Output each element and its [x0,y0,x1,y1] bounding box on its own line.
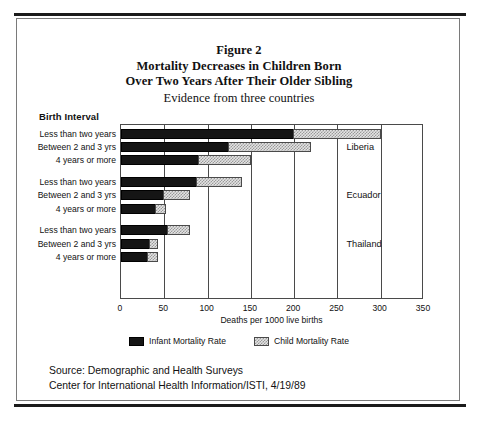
x-tick-label-0: 0 [100,303,140,313]
bar-segment-infant [121,129,294,139]
bar-row [121,142,424,152]
country-label-ecuador: Ecuador [346,190,380,200]
x-tick-label-200: 200 [273,303,313,313]
bar-row [121,225,424,235]
bar-segment-child [196,177,242,187]
bar-segment-child [198,155,251,165]
bar-segment-infant [121,142,229,152]
bar-segment-infant [121,225,168,235]
x-tick-label-50: 50 [143,303,183,313]
bar-segment-infant [121,252,148,262]
bar-segment-child [155,204,166,214]
page-rule-top [14,13,466,16]
bar-row [121,129,424,139]
category-label: Between 2 and 3 yrs [20,190,116,200]
legend-item-infant: Infant Mortality Rate [129,336,226,346]
bar-segment-child [163,190,190,200]
bar-row [121,252,424,262]
bar-row [121,204,424,214]
child-swatch-icon [254,337,269,346]
category-label: 4 years or more [20,204,116,214]
category-label: Between 2 and 3 yrs [20,239,116,249]
bar-segment-child [147,252,158,262]
birth-interval-heading: Birth Interval [39,111,99,122]
category-label: 4 years or more [20,252,116,262]
legend-label-infant: Infant Mortality Rate [149,336,226,346]
x-tick-label-100: 100 [187,303,227,313]
bar-segment-child [167,225,191,235]
source-line-2: Center for International Health Informat… [49,378,305,393]
category-label: Less than two years [20,177,116,187]
figure-border: Figure 2 Mortality Decreases in Children… [16,18,460,401]
page-rule-bottom [14,404,466,407]
bar-segment-infant [121,155,199,165]
bar-segment-child [228,142,311,152]
country-label-liberia: Liberia [346,142,374,152]
country-label-thailand: Thailand [346,239,381,249]
bar-segment-infant [121,190,164,200]
x-tick-label-150: 150 [230,303,270,313]
chart-area: Birth Interval Deaths per 1000 live birt… [17,19,461,402]
figure-page: Figure 2 Mortality Decreases in Children… [0,0,481,421]
x-tick-label-350: 350 [403,303,443,313]
x-tick-label-300: 300 [360,303,400,313]
plot-frame [120,124,423,299]
x-tick-label-250: 250 [316,303,356,313]
bar-segment-child [293,129,381,139]
infant-swatch-icon [129,337,144,346]
category-label: 4 years or more [20,155,116,165]
legend-item-child: Child Mortality Rate [254,336,349,346]
chart-legend: Infant Mortality Rate Child Mortality Ra… [17,336,461,346]
bar-segment-infant [121,204,156,214]
category-label: Less than two years [20,129,116,139]
bar-segment-infant [121,239,150,249]
bar-segment-infant [121,177,197,187]
category-label: Between 2 and 3 yrs [20,142,116,152]
x-axis-title: Deaths per 1000 live births [120,315,423,325]
source-note: Source: Demographic and Health Surveys C… [49,363,305,393]
source-line-1: Source: Demographic and Health Surveys [49,363,305,378]
bar-row [121,155,424,165]
bar-segment-child [149,239,158,249]
category-label: Less than two years [20,225,116,235]
bar-row [121,177,424,187]
legend-label-child: Child Mortality Rate [274,336,349,346]
